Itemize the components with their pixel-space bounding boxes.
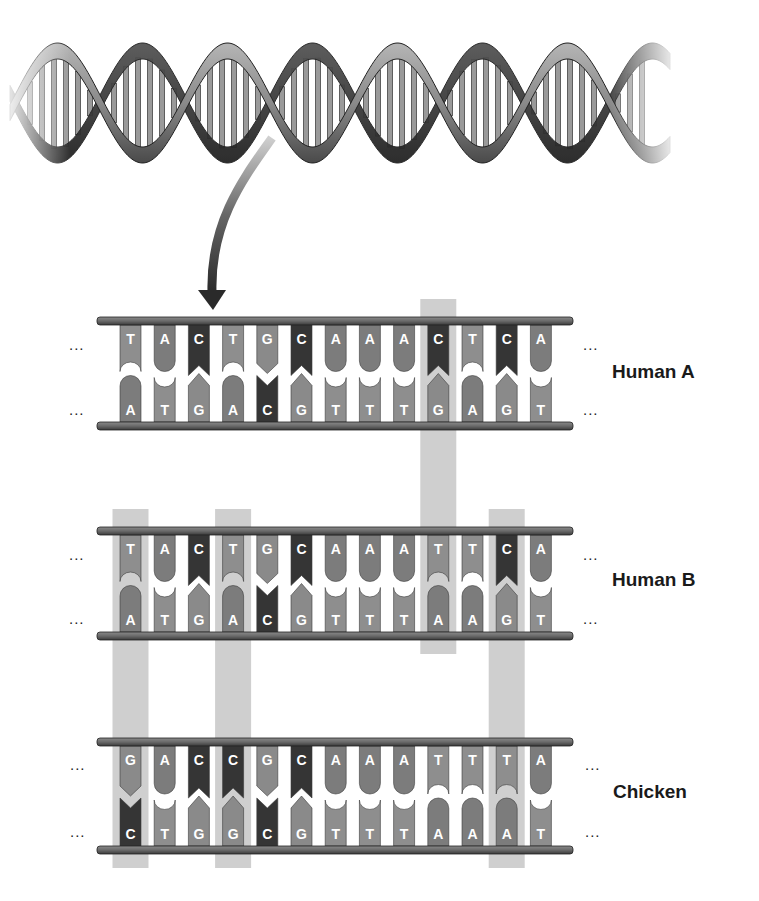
nucleotide-letter: G bbox=[193, 826, 204, 842]
nucleotide-letter: A bbox=[160, 541, 170, 557]
nucleotide-letter: A bbox=[399, 752, 409, 768]
nucleotide-letter: C bbox=[228, 752, 238, 768]
nucleotide-letter: T bbox=[160, 826, 169, 842]
nucleotide-letter: T bbox=[160, 402, 169, 418]
nucleotide-letter: T bbox=[366, 402, 375, 418]
nucleotide-letter: A bbox=[467, 612, 477, 628]
nucleotide-letter: C bbox=[194, 752, 204, 768]
nucleotide-letter: C bbox=[194, 541, 204, 557]
nucleotide-letter: C bbox=[125, 826, 135, 842]
nucleotide-letter: A bbox=[399, 331, 409, 347]
sequence-ladder-human-a: TACTGCAAACTCAATGACGTTTGAGT bbox=[97, 317, 573, 430]
nucleotide-letter: T bbox=[468, 752, 477, 768]
nucleotide-letter: T bbox=[537, 612, 546, 628]
nucleotide-letter: T bbox=[331, 826, 340, 842]
nucleotide-letter: G bbox=[125, 752, 136, 768]
nucleotide-letter: A bbox=[399, 541, 409, 557]
nucleotide-letter: G bbox=[228, 826, 239, 842]
nucleotide-letter: T bbox=[502, 752, 511, 768]
nucleotide-letter: C bbox=[296, 331, 306, 347]
sugar-phosphate-backbone bbox=[97, 527, 573, 535]
ellipsis-left: ... bbox=[70, 827, 86, 837]
dna-double-helix-icon bbox=[0, 30, 680, 180]
label-human-a: Human A bbox=[612, 361, 695, 383]
nucleotide-letter: A bbox=[536, 331, 546, 347]
nucleotide-letter: T bbox=[468, 541, 477, 557]
nucleotide-letter: G bbox=[433, 402, 444, 418]
nucleotide-letter: A bbox=[536, 541, 546, 557]
ellipsis-right: ... bbox=[583, 614, 599, 624]
label-chicken: Chicken bbox=[613, 781, 687, 803]
nucleotide-letter: T bbox=[126, 331, 135, 347]
nucleotide-letter: G bbox=[262, 541, 273, 557]
diagram-canvas: TACTGCAAACTCAATGACGTTTGAGTTACTGCAAATTCAA… bbox=[0, 0, 759, 901]
label-human-b: Human B bbox=[612, 569, 695, 591]
sugar-phosphate-backbone bbox=[97, 317, 573, 325]
nucleotide-letter: A bbox=[433, 826, 443, 842]
ellipsis-left: ... bbox=[70, 760, 86, 770]
nucleotide-letter: T bbox=[229, 331, 238, 347]
nucleotide-letter: G bbox=[262, 331, 273, 347]
nucleotide-letter: C bbox=[296, 541, 306, 557]
nucleotide-letter: T bbox=[400, 826, 409, 842]
ellipsis-right: ... bbox=[585, 760, 601, 770]
nucleotide-letter: T bbox=[160, 612, 169, 628]
nucleotide-letter: A bbox=[433, 612, 443, 628]
nucleotide-letter: T bbox=[434, 541, 443, 557]
nucleotide-letter: T bbox=[400, 402, 409, 418]
nucleotide-letter: C bbox=[194, 331, 204, 347]
nucleotide-letter: T bbox=[434, 752, 443, 768]
nucleotide-letter: G bbox=[501, 402, 512, 418]
sugar-phosphate-backbone bbox=[97, 846, 573, 854]
nucleotide-letter: T bbox=[537, 826, 546, 842]
nucleotide-letter: G bbox=[193, 402, 204, 418]
nucleotide-letter: T bbox=[400, 612, 409, 628]
nucleotide-letter: A bbox=[228, 612, 238, 628]
ellipsis-left: ... bbox=[69, 550, 85, 560]
nucleotide-letter: T bbox=[468, 331, 477, 347]
nucleotide-letter: A bbox=[467, 402, 477, 418]
ellipsis-left: ... bbox=[69, 405, 85, 415]
dna-comparison-figure: TACTGCAAACTCAATGACGTTTGAGTTACTGCAAATTCAA… bbox=[0, 0, 759, 901]
nucleotide-letter: A bbox=[365, 331, 375, 347]
nucleotide-letter: T bbox=[126, 541, 135, 557]
sugar-phosphate-backbone bbox=[97, 422, 573, 430]
nucleotide-letter: A bbox=[228, 402, 238, 418]
nucleotide-letter: T bbox=[229, 541, 238, 557]
nucleotide-letter: A bbox=[467, 826, 477, 842]
nucleotide-letter: C bbox=[296, 752, 306, 768]
nucleotide-letter: A bbox=[331, 752, 341, 768]
ellipsis-left: ... bbox=[69, 340, 85, 350]
sugar-phosphate-backbone bbox=[97, 632, 573, 640]
nucleotide-letter: T bbox=[537, 402, 546, 418]
nucleotide-letter: C bbox=[262, 826, 272, 842]
ellipsis-right: ... bbox=[583, 405, 599, 415]
nucleotide-letter: A bbox=[331, 331, 341, 347]
nucleotide-letter: A bbox=[160, 752, 170, 768]
ellipsis-right: ... bbox=[583, 550, 599, 560]
nucleotide-letter: C bbox=[262, 402, 272, 418]
nucleotide-letter: G bbox=[296, 612, 307, 628]
ellipsis-left: ... bbox=[69, 614, 85, 624]
sugar-phosphate-backbone bbox=[97, 738, 573, 746]
nucleotide-letter: C bbox=[502, 331, 512, 347]
curved-arrow-icon bbox=[198, 138, 272, 310]
nucleotide-letter: C bbox=[502, 541, 512, 557]
nucleotide-letter: G bbox=[296, 826, 307, 842]
nucleotide-letter: T bbox=[366, 826, 375, 842]
nucleotide-letter: C bbox=[433, 331, 443, 347]
nucleotide-letter: G bbox=[501, 612, 512, 628]
ellipsis-right: ... bbox=[583, 340, 599, 350]
nucleotide-letter: A bbox=[125, 402, 135, 418]
nucleotide-letter: T bbox=[331, 402, 340, 418]
nucleotide-letter: T bbox=[366, 612, 375, 628]
nucleotide-letter: A bbox=[536, 752, 546, 768]
nucleotide-letter: G bbox=[193, 612, 204, 628]
nucleotide-letter: A bbox=[365, 752, 375, 768]
nucleotide-letter: G bbox=[296, 402, 307, 418]
nucleotide-letter: C bbox=[262, 612, 272, 628]
ellipsis-right: ... bbox=[585, 827, 601, 837]
nucleotide-letter: A bbox=[125, 612, 135, 628]
nucleotide-letter: A bbox=[365, 541, 375, 557]
nucleotide-letter: A bbox=[502, 826, 512, 842]
